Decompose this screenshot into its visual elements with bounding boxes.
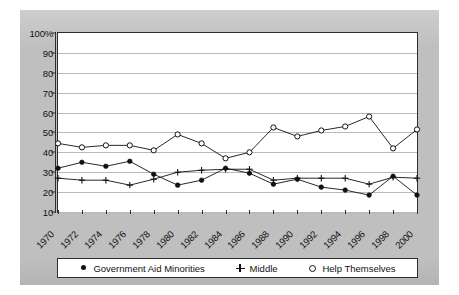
x-tick-mark — [273, 210, 274, 214]
y-tick-mark — [51, 52, 56, 53]
x-tick-mark — [130, 210, 131, 214]
x-tick-label: 1980 — [154, 228, 176, 250]
data-point-marker — [79, 145, 84, 150]
y-tick-mark — [51, 33, 56, 34]
series-middle — [55, 166, 420, 188]
y-tick-mark — [51, 172, 56, 173]
x-tick-mark — [369, 210, 370, 214]
x-tick-label: 1974 — [82, 228, 104, 250]
x-tick-label: 1998 — [369, 228, 391, 250]
series-line — [58, 161, 417, 195]
data-point-marker — [55, 141, 60, 146]
data-point-marker — [295, 134, 300, 139]
plus-icon — [236, 264, 245, 273]
x-tick-mark — [58, 210, 59, 214]
data-point-marker — [247, 150, 252, 155]
legend-item[interactable]: Help Themselves — [308, 263, 395, 274]
x-tick-label: 1976 — [106, 228, 128, 250]
data-point-marker — [367, 114, 372, 119]
x-tick-label: 2000 — [393, 228, 415, 250]
y-axis-line — [55, 32, 56, 213]
legend-item[interactable]: Government Aid Minorities — [79, 263, 204, 274]
x-tick-mark — [202, 210, 203, 214]
x-axis: 1970197219741976197819801982198419861988… — [57, 214, 418, 262]
x-tick-label: 1970 — [34, 228, 56, 250]
legend-item[interactable]: Middle — [236, 263, 278, 274]
data-point-marker — [56, 166, 61, 171]
y-tick-mark — [51, 92, 56, 93]
data-point-marker — [271, 125, 276, 130]
x-tick-label: 1992 — [297, 228, 319, 250]
chart-legend: Government Aid MinoritiesMiddleHelp Them… — [57, 258, 418, 278]
filled-circle-icon — [79, 264, 88, 273]
x-tick-mark — [154, 210, 155, 214]
open-circle-icon — [308, 264, 317, 273]
data-point-marker — [367, 193, 372, 198]
plot-area-frame — [57, 32, 418, 213]
x-tick-mark — [82, 210, 83, 214]
series-line — [58, 169, 417, 185]
data-point-marker — [128, 159, 133, 164]
x-tick-mark — [249, 210, 250, 214]
gridline — [58, 212, 417, 213]
series-government-aid-minorities — [56, 159, 420, 197]
plot-area — [58, 33, 417, 212]
data-point-marker — [151, 172, 156, 177]
series-layer — [58, 33, 417, 212]
x-tick-label: 1978 — [130, 228, 152, 250]
y-tick-mark — [51, 192, 56, 193]
y-tick-mark — [51, 72, 56, 73]
data-point-marker — [175, 183, 180, 188]
data-point-marker — [414, 127, 419, 132]
chart-panel: 100%908070605040302010 19701972197419761… — [20, 10, 439, 285]
data-point-marker — [103, 143, 108, 148]
legend-label: Help Themselves — [322, 263, 395, 274]
data-point-marker — [390, 146, 395, 151]
x-tick-mark — [321, 210, 322, 214]
x-tick-label: 1996 — [345, 228, 367, 250]
data-point-marker — [319, 185, 324, 190]
legend-label: Government Aid Minorities — [93, 263, 204, 274]
data-point-marker — [343, 124, 348, 129]
x-tick-label: 1994 — [321, 228, 343, 250]
data-point-marker — [175, 132, 180, 137]
x-tick-label: 1972 — [58, 228, 80, 250]
y-tick-mark — [51, 132, 56, 133]
y-tick-mark — [51, 152, 56, 153]
y-tick-label: 100% — [30, 28, 54, 39]
y-axis: 100%908070605040302010 — [20, 32, 56, 213]
data-point-marker — [80, 160, 85, 165]
x-tick-mark — [106, 210, 107, 214]
series-help-themselves — [55, 114, 419, 161]
x-tick-label: 1988 — [249, 228, 271, 250]
x-tick-mark — [297, 210, 298, 214]
x-tick-label: 1984 — [201, 228, 223, 250]
data-point-marker — [319, 128, 324, 133]
data-point-marker — [343, 188, 348, 193]
data-point-marker — [199, 141, 204, 146]
legend-label: Middle — [250, 263, 278, 274]
x-tick-mark — [178, 210, 179, 214]
x-tick-label: 1990 — [273, 228, 295, 250]
data-point-marker — [415, 193, 420, 198]
data-point-marker — [127, 143, 132, 148]
data-point-marker — [223, 156, 228, 161]
data-point-marker — [199, 178, 204, 183]
y-tick-mark — [51, 112, 56, 113]
x-tick-label: 1982 — [178, 228, 200, 250]
x-tick-mark — [417, 210, 418, 214]
x-tick-mark — [345, 210, 346, 214]
y-tick-mark — [51, 212, 56, 213]
x-tick-mark — [393, 210, 394, 214]
x-tick-label: 1986 — [225, 228, 247, 250]
series-line — [58, 117, 417, 159]
data-point-marker — [104, 164, 109, 169]
x-tick-mark — [226, 210, 227, 214]
chart-screenshot: 100%908070605040302010 19701972197419761… — [0, 0, 459, 295]
data-point-marker — [151, 148, 156, 153]
